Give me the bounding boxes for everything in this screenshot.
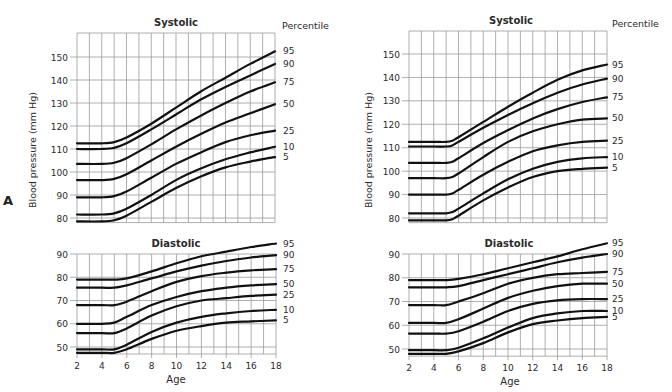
y-tick-label: 80 [57, 214, 69, 224]
x-tick-label: 16 [577, 363, 589, 373]
y-tick-label: 60 [57, 319, 69, 329]
percentile-label-5: 5 [283, 152, 289, 162]
percentile-label-50: 50 [283, 99, 295, 109]
y-tick-label: 140 [383, 73, 400, 83]
y-tick-label: 60 [389, 321, 401, 331]
y-tick-label: 100 [383, 167, 400, 177]
percentile-header: Percentile [282, 20, 329, 31]
percentile-label-10: 10 [283, 142, 295, 152]
x-axis-label: Age [166, 374, 185, 385]
y-tick-label: 80 [389, 214, 401, 224]
x-tick-label: 18 [270, 361, 282, 371]
x-tick-label: 16 [245, 361, 257, 371]
y-tick-label: 110 [383, 143, 400, 153]
x-tick-label: 18 [601, 363, 613, 373]
x-tick-label: 6 [124, 361, 130, 371]
y-tick-label: 80 [57, 273, 69, 283]
x-tick-label: 10 [171, 361, 183, 371]
percentile-label-50: 50 [283, 279, 295, 289]
x-tick-label: 2 [74, 361, 80, 371]
y-tick-label: 90 [57, 191, 69, 201]
percentile-label-95: 95 [612, 60, 623, 70]
percentile-label-25: 25 [283, 126, 294, 136]
percentile-label-90: 90 [283, 250, 295, 260]
y-tick-label: 150 [383, 50, 400, 60]
percentile-label-75: 75 [283, 264, 294, 274]
percentile-label-95: 95 [612, 238, 623, 248]
y-tick-label: 90 [389, 190, 401, 200]
systolic-title: Systolic [489, 15, 533, 26]
blood-pressure-percentile-chart: 8090100110120130140150SystolicPercentile… [0, 0, 672, 392]
x-tick-label: 14 [221, 361, 233, 371]
x-axis-label: Age [500, 376, 519, 387]
percentile-label-75: 75 [612, 92, 623, 102]
y-axis-label: Blood pressure (mm Hg) [27, 92, 38, 208]
percentile-label-5: 5 [612, 163, 618, 173]
x-tick-label: 12 [527, 363, 538, 373]
diastolic-title: Diastolic [152, 238, 201, 249]
x-tick-label: 2 [406, 363, 412, 373]
y-tick-label: 80 [389, 273, 401, 283]
y-tick-label: 110 [51, 145, 68, 155]
y-tick-label: 90 [389, 250, 401, 260]
y-tick-label: 70 [57, 296, 69, 306]
x-tick-label: 4 [99, 361, 105, 371]
y-tick-label: 130 [383, 96, 400, 106]
percentile-label-10: 10 [612, 152, 624, 162]
percentile-label-50: 50 [612, 113, 624, 123]
x-tick-label: 6 [456, 363, 462, 373]
y-tick-label: 140 [51, 76, 68, 86]
percentile-label-75: 75 [612, 267, 623, 277]
diastolic-title: Diastolic [485, 238, 534, 249]
percentile-label-25: 25 [612, 136, 623, 146]
percentile-label-95: 95 [283, 239, 294, 249]
systolic-title: Systolic [154, 17, 198, 28]
percentile-label-5: 5 [612, 312, 618, 322]
x-tick-label: 10 [502, 363, 514, 373]
x-tick-label: 12 [196, 361, 207, 371]
x-tick-label: 4 [431, 363, 437, 373]
percentile-label-25: 25 [612, 294, 623, 304]
x-tick-label: 14 [552, 363, 564, 373]
y-tick-label: 90 [57, 250, 69, 260]
percentile-label-50: 50 [612, 279, 624, 289]
y-tick-label: 100 [51, 168, 68, 178]
y-tick-label: 50 [57, 343, 69, 353]
y-tick-label: 150 [51, 53, 68, 63]
y-tick-label: 120 [383, 120, 400, 130]
y-tick-label: 120 [51, 122, 68, 132]
percentile-label-90: 90 [612, 74, 624, 84]
percentile-label-5: 5 [283, 315, 289, 325]
percentile-header: Percentile [612, 18, 659, 29]
y-axis-label: Blood pressure (mm Hg) [363, 92, 374, 208]
percentile-label-90: 90 [612, 249, 624, 259]
y-tick-label: 50 [389, 345, 401, 355]
percentile-label-90: 90 [283, 59, 295, 69]
percentile-label-25: 25 [283, 290, 294, 300]
percentile-label-95: 95 [283, 46, 294, 56]
y-tick-label: 70 [389, 297, 401, 307]
x-tick-label: 8 [149, 361, 155, 371]
x-tick-label: 8 [480, 363, 486, 373]
percentile-label-75: 75 [283, 77, 294, 87]
y-tick-label: 130 [51, 99, 68, 109]
percentile-label-10: 10 [283, 305, 295, 315]
